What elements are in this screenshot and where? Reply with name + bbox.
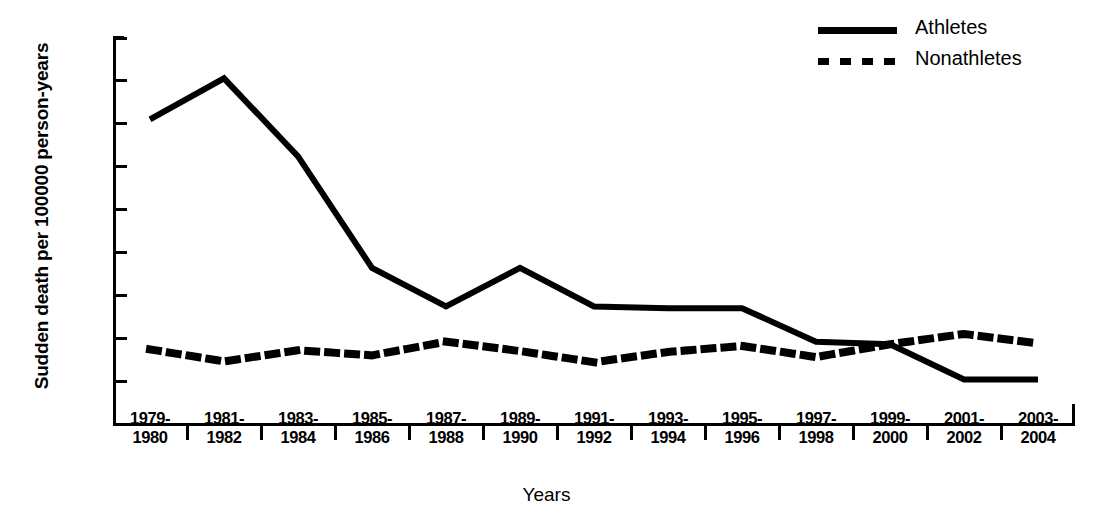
y-axis-line xyxy=(113,36,116,426)
y-axis-tick xyxy=(116,165,127,168)
y-axis-tick xyxy=(116,37,127,40)
y-axis-tick xyxy=(116,122,127,125)
y-axis-tick xyxy=(116,294,127,297)
legend-label: Nonathletes xyxy=(915,47,1022,70)
legend-dotted-line-icon xyxy=(818,58,897,65)
y-axis-title: Sudden death per 100000 person-years xyxy=(31,11,53,421)
y-axis-tick xyxy=(116,337,127,340)
y-axis-tick xyxy=(116,380,127,383)
legend-label: Athletes xyxy=(915,16,987,39)
chart-figure: Sudden death per 100000 person-years 00.… xyxy=(0,0,1093,526)
y-axis-tick xyxy=(116,208,127,211)
series-lines xyxy=(113,36,1075,426)
x-axis-title: Years xyxy=(0,484,1093,506)
y-axis-tick xyxy=(116,79,127,82)
plot-area xyxy=(113,36,1075,426)
chart-legend: AthletesNonathletes xyxy=(818,16,1088,78)
x-axis-tick-label: 2003-2004 xyxy=(995,409,1081,447)
series-line-athletes xyxy=(150,78,1038,379)
y-axis-tick xyxy=(116,251,127,254)
legend-item-nonathletes[interactable]: Nonathletes xyxy=(818,47,1088,78)
legend-solid-line-icon xyxy=(818,27,897,34)
legend-item-athletes[interactable]: Athletes xyxy=(818,16,1088,47)
